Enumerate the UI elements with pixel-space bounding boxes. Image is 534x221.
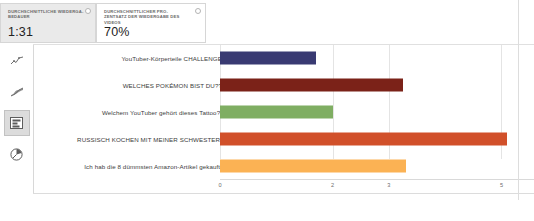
bar[interactable] (220, 105, 333, 118)
page-background (0, 200, 534, 221)
plot-area: YouTuber-Körperteile CHALLENGEWELCHES PO… (34, 44, 534, 179)
chart-type-rail (0, 44, 34, 194)
bar-row[interactable]: YouTuber-Körperteile CHALLENGE (34, 44, 534, 71)
bar-category-label: Welchem YouTuber gehört dieses Tattoo?! (102, 108, 222, 115)
metric-card-average-percentage-viewed[interactable]: DURCHSCHNITTLICHER PRO-ZENTSATZ DER WIED… (96, 3, 206, 43)
right-edge-divider (518, 0, 519, 200)
bar-row[interactable]: WELCHES POKÉMON BIST DU?? (34, 71, 534, 98)
info-dot-icon[interactable] (195, 8, 201, 14)
bar[interactable] (220, 132, 507, 145)
info-dot-icon[interactable] (85, 8, 91, 14)
chart-type-pie-button[interactable] (4, 141, 30, 167)
bar[interactable] (220, 51, 316, 64)
x-tick-label: 3 (387, 182, 390, 188)
x-tick-label: 5 (500, 182, 503, 188)
bar-category-label: Ich hab die 8 dümmsten Amazon-Artikel ge… (84, 162, 222, 169)
metric-card-title: DURCHSCHNITTLICHER PRO-ZENTSATZ DER WIED… (104, 9, 186, 25)
metric-cards: DURCHSCHNITTLICHE WIEDERGA-BEDAUER 1:31 … (0, 3, 206, 43)
analytics-panel: DURCHSCHNITTLICHE WIEDERGA-BEDAUER 1:31 … (0, 0, 534, 221)
x-axis-line (220, 179, 534, 180)
bar-row[interactable]: Welchem YouTuber gehört dieses Tattoo?! (34, 98, 534, 125)
metric-card-value: 1:31 (8, 25, 33, 39)
chart-type-line-button[interactable] (4, 48, 30, 74)
horizontal-bar-chart: YouTuber-Körperteile CHALLENGEWELCHES PO… (34, 44, 534, 199)
bar-category-label: WELCHES POKÉMON BIST DU?? (123, 81, 222, 88)
chart-type-bar-button[interactable] (4, 110, 30, 136)
x-tick-label: 2 (331, 182, 334, 188)
bar-category-label: RUSSISCH KOCHEN MIT MEINER SCHWESTER! (77, 135, 222, 142)
chart-type-area-button[interactable] (4, 79, 30, 105)
pie-chart-icon (10, 148, 23, 161)
bar-row[interactable]: RUSSISCH KOCHEN MIT MEINER SCHWESTER! (34, 125, 534, 152)
bar-category-label: YouTuber-Körperteile CHALLENGE (121, 54, 222, 61)
bar[interactable] (220, 78, 403, 91)
area-chart-icon (10, 87, 24, 97)
bar[interactable] (220, 159, 406, 172)
bar-chart-icon (10, 117, 23, 129)
line-chart-icon (10, 56, 24, 66)
bar-row[interactable]: Ich hab die 8 dümmsten Amazon-Artikel ge… (34, 152, 534, 179)
x-tick-label: 0 (218, 182, 221, 188)
metric-card-average-view-duration[interactable]: DURCHSCHNITTLICHE WIEDERGA-BEDAUER 1:31 (0, 3, 96, 43)
metric-card-value: 70% (104, 25, 130, 39)
metric-card-title: DURCHSCHNITTLICHE WIEDERGA-BEDAUER (8, 9, 90, 20)
